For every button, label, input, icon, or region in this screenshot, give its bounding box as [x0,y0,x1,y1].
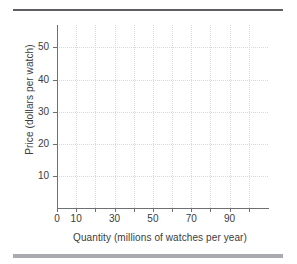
y-tick-mark [53,176,58,177]
gridline-vertical [134,25,135,208]
y-tick-label: 50 [25,41,49,52]
y-tick-label: 20 [25,138,49,149]
gridline-horizontal [57,144,268,145]
figure: Price (dollars per watch) 01030507090 10… [0,0,297,264]
gridline-vertical [191,25,192,208]
x-axis-title: Quantity (millions of watches per year) [40,232,280,243]
x-tick-label: 70 [177,213,205,224]
gridline-vertical [153,25,154,208]
x-tick-mark [95,208,96,212]
x-tick-mark [115,208,116,212]
x-tick-label: 50 [139,213,167,224]
x-axis-line [57,208,269,209]
x-tick-mark [230,208,231,212]
gridline-horizontal [57,80,268,81]
x-tick-mark [191,208,192,212]
y-tick-label: 40 [25,74,49,85]
y-tick-label: 30 [25,106,49,117]
bottom-divider-rule [13,254,283,258]
gridline-horizontal [57,112,268,113]
y-tick-mark [53,80,58,81]
gridline-horizontal [57,47,268,48]
y-tick-mark [53,144,58,145]
gridline-vertical [230,25,231,208]
x-tick-mark [172,208,173,212]
y-tick-mark [53,112,58,113]
x-tick-mark [153,208,154,212]
x-tick-mark [134,208,135,212]
plot-area [57,25,268,208]
x-tick-mark [57,208,58,212]
gridline-vertical [95,25,96,208]
gridline-horizontal [57,176,268,177]
gridline-vertical [249,25,250,208]
x-tick-label: 90 [216,213,244,224]
gridline-vertical [115,25,116,208]
y-axis-line [57,25,58,209]
top-divider-rule [13,9,283,11]
gridline-vertical [76,25,77,208]
x-tick-label: 10 [62,213,90,224]
x-tick-mark [76,208,77,212]
gridline-vertical [172,25,173,208]
y-tick-label: 10 [25,170,49,181]
gridline-vertical [210,25,211,208]
y-tick-mark [53,47,58,48]
x-tick-label: 30 [101,213,129,224]
y-axis-title: Price (dollars per watch) [24,15,35,185]
x-tick-mark [210,208,211,212]
x-tick-mark [249,208,250,212]
